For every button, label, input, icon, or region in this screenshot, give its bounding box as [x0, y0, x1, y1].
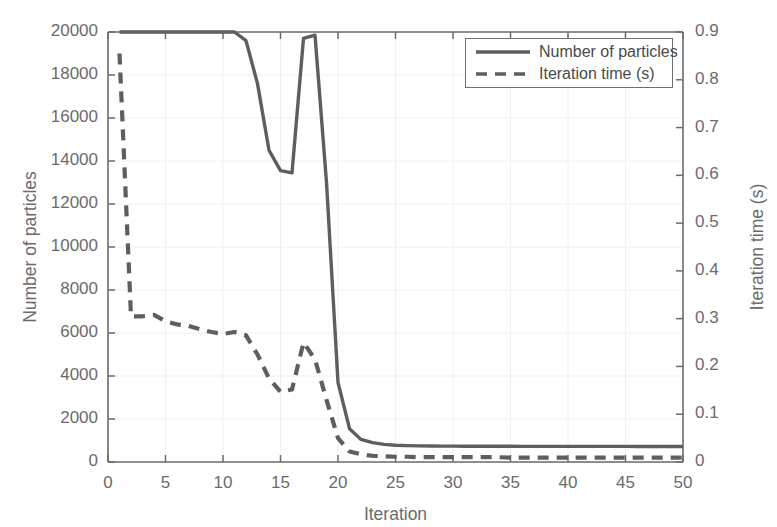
y-tick-label-left-8: 16000 [51, 107, 98, 127]
x-tick-label-7: 35 [491, 473, 531, 493]
x-tick-label-8: 40 [548, 473, 588, 493]
chart-legend: Number of particles Iteration time (s) [465, 38, 673, 88]
y-axis-left-title: Number of particles [20, 171, 41, 323]
y-tick-label-left-6: 12000 [51, 193, 98, 213]
y-tick-label-left-5: 10000 [51, 236, 98, 256]
series-line-1 [120, 54, 684, 458]
legend-label-0: Number of particles [539, 43, 678, 61]
legend-dashed-line-swatch [474, 65, 532, 83]
series-line-0 [120, 32, 684, 446]
legend-label-1: Iteration time (s) [539, 65, 655, 83]
y-tick-label-left-4: 8000 [60, 279, 98, 299]
x-tick-label-6: 30 [433, 473, 473, 493]
y-tick-label-left-1: 2000 [60, 408, 98, 428]
x-axis-title: Iteration [296, 504, 496, 525]
y-tick-label-left-9: 18000 [51, 64, 98, 84]
y-tick-label-left-10: 20000 [51, 21, 98, 41]
y-tick-label-right-5: 0.5 [695, 212, 719, 232]
x-tick-label-1: 5 [146, 473, 186, 493]
y-tick-label-left-3: 6000 [60, 322, 98, 342]
y-tick-label-left-2: 4000 [60, 365, 98, 385]
y-axis-right-title: Iteration time (s) [747, 184, 768, 310]
figure-canvas: 0200040006000800010000120001400016000180… [0, 0, 777, 527]
y-tick-label-right-4: 0.4 [695, 260, 719, 280]
x-tick-label-4: 20 [318, 473, 358, 493]
y-tick-label-right-0: 0 [695, 451, 704, 471]
y-tick-label-right-2: 0.2 [695, 355, 719, 375]
y-tick-label-right-8: 0.8 [695, 69, 719, 89]
legend-entry-iteration-time: Iteration time (s) [474, 63, 655, 85]
y-tick-label-left-0: 0 [89, 451, 98, 471]
legend-entry-number-of-particles: Number of particles [474, 41, 678, 63]
x-tick-label-3: 15 [261, 473, 301, 493]
x-tick-label-9: 45 [606, 473, 646, 493]
y-tick-label-right-6: 0.6 [695, 164, 719, 184]
y-tick-label-left-7: 14000 [51, 150, 98, 170]
x-tick-label-2: 10 [203, 473, 243, 493]
legend-solid-line-swatch [474, 43, 532, 61]
y-tick-label-right-7: 0.7 [695, 117, 719, 137]
x-tick-label-5: 25 [376, 473, 416, 493]
y-tick-label-right-9: 0.9 [695, 21, 719, 41]
x-tick-label-10: 50 [663, 473, 703, 493]
y-tick-label-right-3: 0.3 [695, 308, 719, 328]
gridlines [108, 32, 683, 462]
data-series-paths [120, 32, 684, 458]
x-tick-label-0: 0 [88, 473, 128, 493]
y-tick-label-right-1: 0.1 [695, 403, 719, 423]
